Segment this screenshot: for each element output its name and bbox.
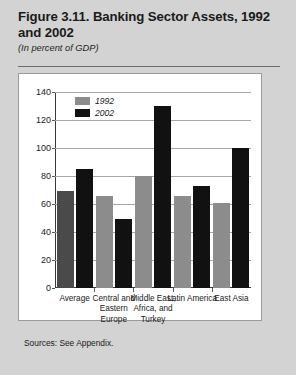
legend-label-1992: 1992 — [95, 96, 114, 106]
bar-2002-latin-america — [193, 186, 210, 288]
chart-legend: 19922002 — [75, 96, 114, 120]
legend-swatch-2002 — [75, 109, 90, 117]
y-axis-tick-label: 80 — [41, 171, 51, 181]
y-axis-tick-label: 0 — [46, 283, 51, 293]
y-axis-tick-mark — [52, 288, 55, 289]
plot-area: 020406080100120140 AverageCentral and Ea… — [55, 92, 251, 288]
bar-1992-latin-america — [174, 196, 191, 288]
x-axis-tick-mark — [212, 288, 213, 292]
legend-item-2002: 2002 — [75, 108, 114, 118]
legend-swatch-1992 — [75, 97, 90, 105]
bars-layer — [55, 92, 251, 288]
bar-2002-east-asia — [232, 148, 249, 288]
bar-2002-average — [76, 169, 93, 288]
figure-container: Figure 3.11. Banking Sector Assets, 1992… — [0, 0, 296, 375]
bar-1992-middle-east-africa-and-turkey — [135, 176, 152, 288]
page-title: Figure 3.11. Banking Sector Assets, 1992… — [18, 9, 280, 40]
title-divider — [18, 66, 280, 67]
x-axis-tick-mark — [94, 288, 95, 292]
y-axis-tick-label: 120 — [36, 115, 51, 125]
bar-2002-central-and-eastern-europe — [115, 219, 132, 288]
bar-2002-middle-east-africa-and-turkey — [154, 106, 171, 288]
y-axis-tick-label: 100 — [36, 143, 51, 153]
bar-1992-east-asia — [213, 203, 230, 288]
sources-note: Sources: See Appendix. — [24, 338, 113, 348]
y-axis-tick-label: 20 — [41, 255, 51, 265]
y-axis-tick-label: 40 — [41, 227, 51, 237]
legend-item-1992: 1992 — [75, 96, 114, 106]
y-axis-tick-label: 60 — [41, 199, 51, 209]
x-axis-tick-mark — [173, 288, 174, 292]
bar-1992-average — [57, 191, 74, 288]
legend-label-2002: 2002 — [95, 108, 114, 118]
x-axis-category-label: East Asia — [206, 294, 257, 304]
title-block: Figure 3.11. Banking Sector Assets, 1992… — [18, 9, 280, 53]
chart-panel: 020406080100120140 AverageCentral and Ea… — [18, 73, 262, 321]
bar-1992-central-and-eastern-europe — [96, 196, 113, 288]
y-axis-tick-label: 140 — [36, 87, 51, 97]
chart-subtitle: (In percent of GDP) — [18, 43, 280, 53]
x-axis-tick-mark — [133, 288, 134, 292]
